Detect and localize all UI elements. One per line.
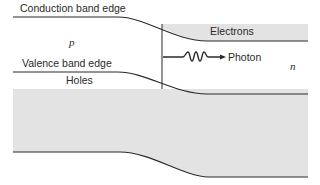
holes-region	[13, 89, 308, 177]
p-region-label: p	[68, 36, 75, 48]
pn-junction-band-diagram: Conduction band edge Valence band edge H…	[0, 0, 320, 185]
n-region-label: n	[290, 60, 296, 72]
photon-label: Photon	[228, 51, 261, 63]
electrons-label: Electrons	[210, 25, 254, 37]
photon-arrow-icon	[220, 55, 226, 60]
valence-band-label: Valence band edge	[22, 57, 112, 69]
holes-label: Holes	[66, 74, 93, 86]
conduction-band-label: Conduction band edge	[20, 2, 126, 14]
photon-wave-icon	[163, 52, 220, 61]
